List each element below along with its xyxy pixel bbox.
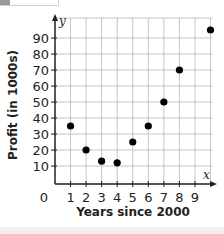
x-tick-label: 5 [129,190,137,205]
x-tick-label: 2 [82,190,90,205]
y-tick-label: 30 [32,127,49,142]
y-tick-label: 70 [32,63,49,78]
x-tick-label: 7 [160,190,168,205]
x-tick-label: 1 [66,190,74,205]
y-axis-letter: y [58,14,66,28]
y-tick-label: 90 [32,31,49,46]
y-axis-title: Profit (in 1000s) [6,50,20,160]
x-axis-arrow-icon [210,181,217,187]
data-point [67,122,74,129]
data-point [207,26,214,33]
data-point [114,159,121,166]
scatter-chart: y x 0 123456789 102030405060708090 Profi… [0,0,224,234]
x-axis-letter: x [203,168,210,182]
origin-label: 0 [40,190,48,205]
data-point [98,158,105,165]
x-tick-label: 4 [113,190,121,205]
axes: y x 0 [40,14,217,205]
data-point [160,98,167,105]
x-ticks: 123456789 [66,181,199,205]
y-tick-label: 80 [32,47,49,62]
data-point [83,146,90,153]
y-ticks: 102030405060708090 [32,31,57,174]
y-tick-label: 50 [32,95,49,110]
data-point [129,138,136,145]
x-tick-label: 9 [191,190,199,205]
x-axis-title: Years since 2000 [75,205,190,219]
x-tick-label: 6 [144,190,152,205]
y-tick-label: 60 [32,79,49,94]
x-tick-label: 8 [175,190,183,205]
y-tick-label: 20 [32,143,49,158]
data-point [145,122,152,129]
y-axis-arrow-icon [52,14,58,21]
y-tick-label: 10 [32,159,49,174]
grid-lines [55,18,213,184]
data-points [67,26,214,166]
data-point [176,66,183,73]
y-tick-label: 40 [32,111,49,126]
bottom-band [0,227,224,234]
x-tick-label: 3 [98,190,106,205]
